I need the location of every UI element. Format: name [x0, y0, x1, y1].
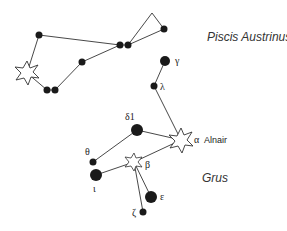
beta-label: β [145, 159, 150, 170]
star-dot [125, 42, 132, 49]
star-dot [161, 26, 168, 33]
theta-label: θ [85, 146, 90, 157]
zeta-label: ζ [132, 207, 136, 219]
star-dot [36, 32, 43, 39]
star-chart: Piscis Austrinus Grus γ λ α Alnair δ1 θ … [0, 0, 287, 231]
alnair-label: Alnair [204, 135, 227, 145]
star-dot [117, 42, 124, 49]
piscis-austrinus-lines [27, 13, 164, 90]
lambda-label: λ [160, 81, 165, 92]
star-dot [79, 59, 86, 66]
delta1-label: δ1 [125, 111, 135, 122]
epsilon-label: ε [160, 191, 164, 202]
star-epsilon [145, 191, 157, 203]
star-theta [90, 159, 97, 166]
beta-open-star-icon [125, 153, 142, 171]
grus-label: Grus [202, 171, 228, 185]
star-lambda [151, 83, 158, 90]
star-gamma [160, 56, 170, 66]
star-zeta [140, 209, 147, 216]
gamma-label: γ [174, 55, 180, 66]
piscis-austrinus-label: Piscis Austrinus [207, 30, 287, 44]
star-delta1 [131, 124, 143, 136]
piscis-austrinus-stars [36, 26, 168, 94]
alnair-open-star-icon [169, 128, 193, 153]
star-iota [90, 169, 102, 181]
iota-label: ι [93, 183, 96, 194]
star-dot [44, 87, 51, 94]
alpha-label: α [194, 134, 200, 145]
fomalhaut-open-star-icon [15, 61, 39, 85]
star-dot [52, 87, 59, 94]
grus-lines [93, 61, 181, 212]
